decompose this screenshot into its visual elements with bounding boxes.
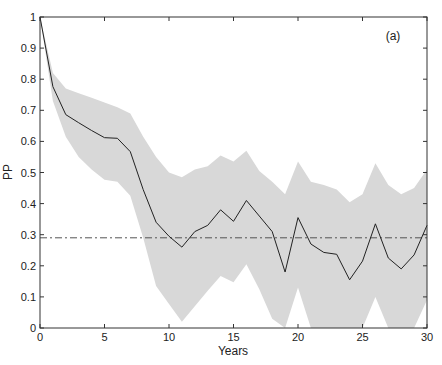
y-tick-label: 0.7 bbox=[21, 104, 36, 116]
y-tick-label: 0 bbox=[30, 322, 36, 334]
y-tick-label: 0.3 bbox=[21, 229, 36, 241]
x-axis-label: Years bbox=[218, 344, 248, 358]
y-tick-label: 0.1 bbox=[21, 291, 36, 303]
y-tick-label: 0.6 bbox=[21, 135, 36, 147]
band-area bbox=[40, 17, 427, 328]
x-tick-label: 25 bbox=[356, 331, 368, 343]
y-tick-label: 0.4 bbox=[21, 198, 36, 210]
chart: 051015202530 00.10.20.30.40.50.60.70.80.… bbox=[0, 0, 442, 365]
panel-label: (a) bbox=[386, 29, 401, 43]
x-tick-label: 0 bbox=[37, 331, 43, 343]
y-tick-label: 0.9 bbox=[21, 42, 36, 54]
y-tick-label: 0.2 bbox=[21, 260, 36, 272]
confidence-band bbox=[40, 17, 427, 328]
y-axis-label: PP bbox=[1, 164, 15, 180]
y-tick-label: 0.5 bbox=[21, 167, 36, 179]
y-tick-label: 0.8 bbox=[21, 73, 36, 85]
x-tick-label: 20 bbox=[292, 331, 304, 343]
x-tick-label: 10 bbox=[163, 331, 175, 343]
x-tick-label: 5 bbox=[101, 331, 107, 343]
y-tick-label: 1 bbox=[30, 11, 36, 23]
x-tick-label: 15 bbox=[227, 331, 239, 343]
x-tick-label: 30 bbox=[421, 331, 433, 343]
